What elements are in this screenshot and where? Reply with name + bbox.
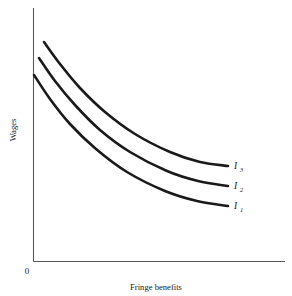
curve-label-i1-subscript: 1: [240, 206, 243, 213]
y-axis-title: Wages: [8, 118, 18, 141]
indifference-curve-i3: [44, 42, 228, 166]
origin-label: 0: [25, 266, 30, 276]
x-axis-title: Fringe benefits: [130, 282, 182, 292]
curve-label-i3-subscript: 3: [239, 166, 243, 173]
indifference-curve-figure: I 3 I 2 I 1 0 Wages Fringe benefits: [0, 0, 292, 296]
chart-canvas: I 3 I 2 I 1 0 Wages Fringe benefits: [0, 0, 292, 296]
indifference-curve-i1: [34, 75, 228, 206]
curve-label-i1: I 1: [233, 201, 243, 213]
curve-label-i3-base: I: [233, 161, 238, 171]
curve-label-i1-base: I: [233, 201, 238, 211]
curve-label-i2-base: I: [233, 181, 238, 191]
curve-label-i3: I 3: [233, 161, 243, 173]
curve-label-i2-subscript: 2: [240, 186, 244, 193]
curve-label-i2: I 2: [233, 181, 244, 193]
